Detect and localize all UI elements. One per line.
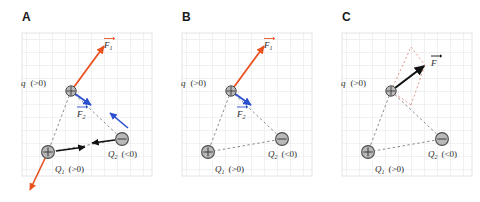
panel-c: C bbox=[320, 0, 480, 202]
panel-a-label-q: q(>0) bbox=[21, 78, 46, 88]
panel-b: B bbox=[160, 0, 320, 202]
panel-b-label-q1: Q1(>0) bbox=[215, 164, 244, 175]
panel-a-charge-q1 bbox=[42, 146, 55, 159]
panel-b-label-q2: Q2(<0) bbox=[268, 149, 297, 160]
panel-c-charge-q1 bbox=[362, 146, 375, 159]
panel-b-label-q: q(>0) bbox=[181, 78, 206, 88]
panel-b-charge-q2 bbox=[276, 133, 289, 146]
panel-c-charge-q bbox=[386, 86, 396, 96]
panel-a-charge-q2 bbox=[116, 133, 129, 146]
panel-c-label-q: q(>0) bbox=[341, 78, 366, 88]
panel-b-charge-q1 bbox=[202, 146, 215, 159]
panel-b-charge-q bbox=[226, 86, 236, 96]
panel-a-charge-q bbox=[66, 86, 76, 96]
svg-text:F: F bbox=[430, 58, 437, 68]
panel-c-label-q2: Q2(<0) bbox=[428, 149, 457, 160]
panel-a-label-q2: Q2(<0) bbox=[108, 149, 137, 160]
panel-a: A bbox=[0, 0, 160, 202]
panel-c-canvas: q(>0) Q1(>0) Q2(<0) F bbox=[320, 0, 480, 202]
physics-figure: A bbox=[0, 0, 480, 202]
panel-a-label-q1: Q1(>0) bbox=[55, 164, 84, 175]
panel-b-canvas: q(>0) Q1(>0) Q2(<0) F1 F2 bbox=[160, 0, 320, 202]
panel-a-canvas: q(>0) Q1(>0) Q2(<0) F1 F2 bbox=[0, 0, 160, 202]
panel-c-charge-q2 bbox=[436, 133, 449, 146]
panel-c-label-q1: Q1(>0) bbox=[375, 164, 404, 175]
